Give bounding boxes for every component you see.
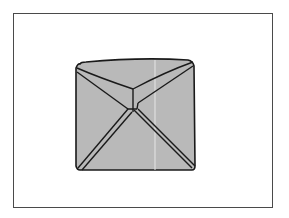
crease-right-upper-join [137, 103, 138, 109]
folded-square-diagram [0, 0, 289, 218]
